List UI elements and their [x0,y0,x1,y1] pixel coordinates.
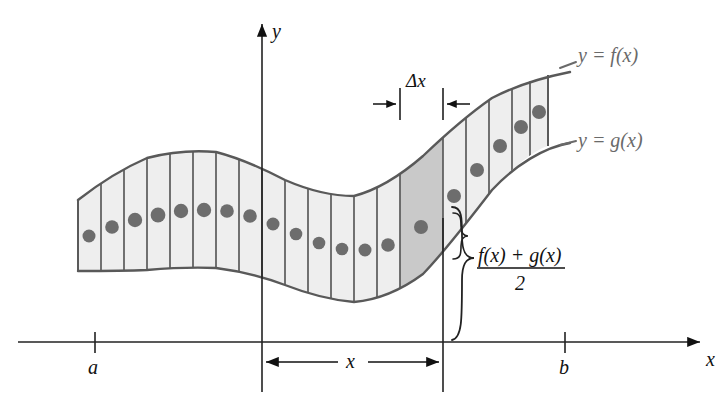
delta-x-label: Δx [406,70,426,92]
delta-x-markers [373,88,470,120]
curve-label-f: y = f(x) [578,44,638,67]
y-axis-label: y [272,20,281,43]
tick-label-a: a [88,356,98,379]
midpoint-formula-numerator: f(x) + g(x) [478,244,561,267]
x-axis-label: x [706,348,715,371]
tick-label-b: b [559,356,569,379]
f-label-leader [560,62,576,68]
midpoint-formula-denominator: 2 [515,272,525,295]
x-measure-label: x [346,350,355,373]
curve-label-g: y = g(x) [578,129,643,152]
figure-canvas: y x a b y = f(x) y = g(x) Δx x f(x) + g(… [0,0,723,414]
